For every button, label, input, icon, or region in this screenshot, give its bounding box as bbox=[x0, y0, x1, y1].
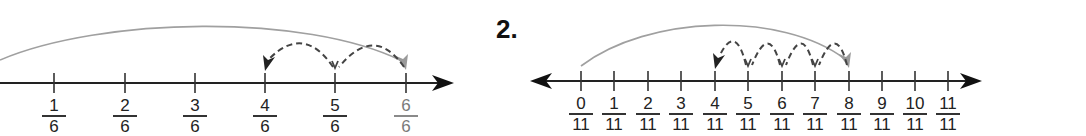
numerator: 7 bbox=[800, 95, 830, 112]
denominator: 11 bbox=[933, 116, 963, 133]
denominator: 11 bbox=[700, 116, 730, 133]
denominator: 11 bbox=[834, 116, 864, 133]
denominator: 6 bbox=[180, 118, 210, 135]
denominator: 11 bbox=[666, 116, 696, 133]
denominator: 11 bbox=[900, 116, 930, 133]
numerator: 3 bbox=[180, 97, 210, 114]
problem-2-tick-label: 111 bbox=[599, 95, 629, 133]
problem-2-tick-label: 211 bbox=[633, 95, 663, 133]
problem-1-tick-label: 26 bbox=[110, 97, 140, 135]
numerator: 1 bbox=[599, 95, 629, 112]
problem-2-tick-label: 611 bbox=[767, 95, 797, 133]
numerator: 4 bbox=[700, 95, 730, 112]
problem-1-tick-label: 66 bbox=[391, 97, 421, 135]
problem-number-2: 2. bbox=[496, 14, 518, 45]
problem-2-tick-label: 811 bbox=[834, 95, 864, 133]
problem-1-back-jump-arrow-icon bbox=[263, 55, 275, 71]
problem-2-tick-label: 1011 bbox=[900, 95, 930, 133]
denominator: 6 bbox=[110, 118, 140, 135]
problem-1-tick-label: 36 bbox=[180, 97, 210, 135]
numerator: 11 bbox=[933, 95, 963, 112]
denominator: 11 bbox=[767, 116, 797, 133]
numerator: 2 bbox=[110, 97, 140, 114]
problem-2-back-jump-arc bbox=[719, 41, 746, 65]
problem-2-back-jump-arrow-icon bbox=[713, 53, 725, 69]
numerator: 9 bbox=[867, 95, 897, 112]
problem-2-back-jump-arc bbox=[786, 44, 813, 66]
problem-2-tick-label: 1111 bbox=[933, 95, 963, 133]
numerator: 6 bbox=[767, 95, 797, 112]
problem-1-long-jump-arrow-icon bbox=[396, 54, 408, 70]
denominator: 11 bbox=[800, 116, 830, 133]
problem-2-tick-label: 711 bbox=[800, 95, 830, 133]
numerator: 5 bbox=[320, 97, 350, 114]
problem-2-tick-label: 011 bbox=[566, 95, 596, 133]
denominator: 11 bbox=[867, 116, 897, 133]
denominator: 11 bbox=[733, 116, 763, 133]
problem-2-tick-label: 411 bbox=[700, 95, 730, 133]
denominator: 6 bbox=[250, 118, 280, 135]
problem-2-tick-label: 511 bbox=[733, 95, 763, 133]
numerator: 10 bbox=[900, 95, 930, 112]
problem-2-back-jump-arc bbox=[819, 44, 847, 66]
problem-1-back-jump-arc bbox=[269, 43, 333, 67]
denominator: 6 bbox=[39, 118, 69, 135]
numerator: 0 bbox=[566, 95, 596, 112]
problem-1-tick-label: 56 bbox=[320, 97, 350, 135]
numerator: 8 bbox=[834, 95, 864, 112]
denominator: 6 bbox=[391, 118, 421, 135]
problem-1-long-jump-arc bbox=[0, 26, 402, 61]
numerator: 2 bbox=[633, 95, 663, 112]
numerator: 6 bbox=[391, 97, 421, 114]
problem-1-tick-label: 46 bbox=[250, 97, 280, 135]
numerator: 1 bbox=[39, 97, 69, 114]
problem-1-tick-label: 16 bbox=[39, 97, 69, 135]
denominator: 6 bbox=[320, 118, 350, 135]
problem-2-tick-label: 911 bbox=[867, 95, 897, 133]
problem-2-back-jump-arc bbox=[752, 44, 780, 66]
numerator: 5 bbox=[733, 95, 763, 112]
denominator: 11 bbox=[566, 116, 596, 133]
numerator: 3 bbox=[666, 95, 696, 112]
numerator: 4 bbox=[250, 97, 280, 114]
denominator: 11 bbox=[599, 116, 629, 133]
problem-2-tick-label: 311 bbox=[666, 95, 696, 133]
denominator: 11 bbox=[633, 116, 663, 133]
